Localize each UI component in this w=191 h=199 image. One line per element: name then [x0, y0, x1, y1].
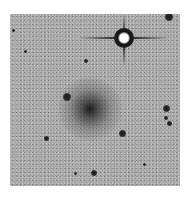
star — [74, 172, 77, 175]
astronomical-image — [10, 14, 180, 186]
star — [63, 93, 71, 101]
galaxy — [58, 77, 122, 141]
star — [163, 105, 170, 112]
star — [119, 130, 126, 137]
bright-star — [114, 28, 134, 48]
star — [24, 50, 27, 53]
star — [164, 116, 168, 120]
star — [91, 170, 97, 176]
star — [12, 29, 15, 32]
star — [84, 59, 88, 63]
star — [167, 121, 172, 126]
star — [44, 136, 49, 141]
star — [143, 163, 146, 166]
